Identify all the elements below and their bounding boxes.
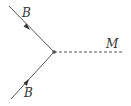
vertex-dot xyxy=(53,51,56,54)
feynman-diagram: B B M xyxy=(0,0,131,106)
incoming-line-top xyxy=(9,6,54,52)
label-right-m: M xyxy=(105,37,119,51)
label-bottom-b: B xyxy=(23,86,33,100)
label-top-b: B xyxy=(21,6,31,20)
